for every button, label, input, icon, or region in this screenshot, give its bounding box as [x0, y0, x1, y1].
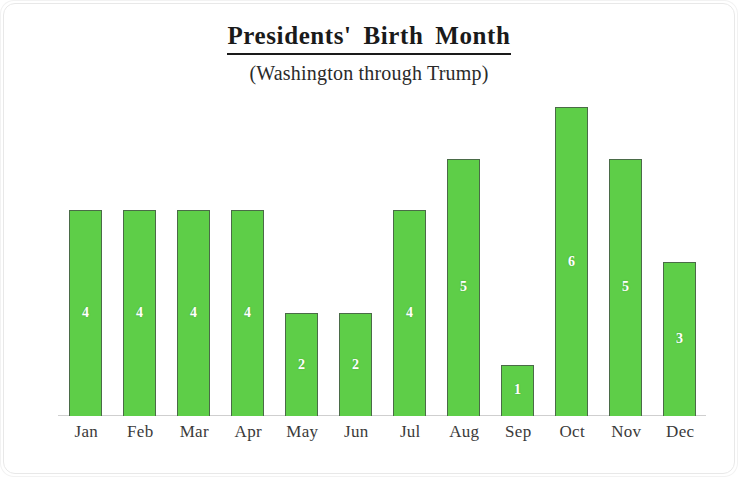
bar-value-label: 5 [448, 279, 479, 295]
bar-value-label: 4 [178, 305, 209, 321]
bar-value-label: 4 [232, 305, 263, 321]
x-label-nov: Nov [598, 422, 655, 442]
bar-slot: 2 [328, 95, 385, 416]
x-label-aug: Aug [436, 422, 493, 442]
x-label-apr: Apr [220, 422, 277, 442]
plot-area: 444422451653 [58, 95, 706, 416]
x-axis-labels: JanFebMarAprMayJunJulAugSepOctNovDec [58, 422, 706, 452]
bar-slot: 4 [166, 95, 223, 416]
bar-slot: 4 [220, 95, 277, 416]
x-label-oct: Oct [544, 422, 601, 442]
bar-value-label: 4 [124, 305, 155, 321]
bar-apr[interactable]: 4 [231, 210, 264, 416]
x-label-jun: Jun [328, 422, 385, 442]
bar-slot: 5 [436, 95, 493, 416]
x-label-dec: Dec [652, 422, 709, 442]
chart-card: Presidents' Birth Month (Washington thro… [0, 0, 738, 477]
bar-value-label: 4 [394, 305, 425, 321]
bar-value-label: 4 [70, 305, 101, 321]
bar-slot: 4 [382, 95, 439, 416]
bar-slot: 4 [112, 95, 169, 416]
x-label-jan: Jan [58, 422, 115, 442]
bar-oct[interactable]: 6 [555, 107, 588, 416]
bar-slot: 2 [274, 95, 331, 416]
bar-may[interactable]: 2 [285, 313, 318, 416]
bar-mar[interactable]: 4 [177, 210, 210, 416]
bar-value-label: 2 [286, 357, 317, 373]
bar-dec[interactable]: 3 [663, 262, 696, 417]
bar-series: 444422451653 [58, 95, 706, 416]
chart-subtitle: (Washington through Trump) [0, 62, 738, 85]
bar-slot: 4 [58, 95, 115, 416]
chart-title: Presidents' Birth Month [227, 22, 510, 55]
bar-aug[interactable]: 5 [447, 159, 480, 417]
bar-slot: 1 [490, 95, 547, 416]
bar-value-label: 3 [664, 331, 695, 347]
bar-jul[interactable]: 4 [393, 210, 426, 416]
bar-slot: 5 [598, 95, 655, 416]
bar-slot: 6 [544, 95, 601, 416]
bar-sep[interactable]: 1 [501, 365, 534, 417]
bar-value-label: 1 [502, 382, 533, 398]
bar-jan[interactable]: 4 [69, 210, 102, 416]
bar-jun[interactable]: 2 [339, 313, 372, 416]
bar-slot: 3 [652, 95, 709, 416]
x-label-may: May [274, 422, 331, 442]
bar-nov[interactable]: 5 [609, 159, 642, 417]
x-label-sep: Sep [490, 422, 547, 442]
bar-value-label: 2 [340, 357, 371, 373]
x-label-jul: Jul [382, 422, 439, 442]
title-block: Presidents' Birth Month (Washington thro… [0, 22, 738, 85]
x-label-feb: Feb [112, 422, 169, 442]
bar-value-label: 6 [556, 254, 587, 270]
bar-value-label: 5 [610, 279, 641, 295]
x-label-mar: Mar [166, 422, 223, 442]
bar-feb[interactable]: 4 [123, 210, 156, 416]
